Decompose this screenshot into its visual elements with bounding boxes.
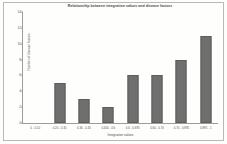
y-tick-label: 6 <box>19 73 21 77</box>
y-tick-label: 12 <box>17 26 21 30</box>
y-tick-label: 14 <box>17 10 21 14</box>
bar <box>78 99 89 123</box>
x-tick-label: 0.450 - 0.6 <box>101 126 115 130</box>
x-tick-label: 0.30 - 0.45 <box>77 126 91 130</box>
x-tick-label: 0.60 - 0.70 <box>150 126 164 130</box>
x-tick-label: 0.20 - 0.30 <box>53 126 67 130</box>
bar-group: 0.70 - 0.895 <box>169 12 193 123</box>
bar-group: 0.30 - 0.45 <box>72 12 96 123</box>
y-tick-label: 8 <box>19 58 21 62</box>
x-tick-label: 0.6 - 0.695 <box>126 126 140 130</box>
bar <box>176 60 187 123</box>
x-axis-label: Integration values <box>23 133 218 137</box>
figure: Relationship between integration values … <box>0 0 227 144</box>
bar-group: 0.60 - 0.70 <box>145 12 169 123</box>
bar <box>200 36 211 123</box>
bar <box>103 107 114 123</box>
y-tick-label: 2 <box>19 105 21 109</box>
y-tick-label: 10 <box>17 42 21 46</box>
bar <box>54 83 65 123</box>
x-tick-label: 0.70 - 0.895 <box>174 126 189 130</box>
bar-group: 0 - 0.10 <box>23 12 47 123</box>
y-tick-label: 4 <box>19 89 21 93</box>
bar-group: 0.20 - 0.30 <box>47 12 71 123</box>
plot-area: Number of disease factors 02468101214 0 … <box>23 12 218 123</box>
bar <box>152 75 163 123</box>
x-tick-label: 0 - 0.10 <box>30 126 40 130</box>
x-tick-label: 0.895 - 1 <box>200 126 211 130</box>
y-tick-label: 0 <box>19 121 21 125</box>
bar <box>127 75 138 123</box>
chart-title: Relationship between integration values … <box>30 4 210 9</box>
bar-group: 0.6 - 0.695 <box>121 12 145 123</box>
bar-group: 0.895 - 1 <box>194 12 218 123</box>
bar-group: 0.450 - 0.6 <box>96 12 120 123</box>
